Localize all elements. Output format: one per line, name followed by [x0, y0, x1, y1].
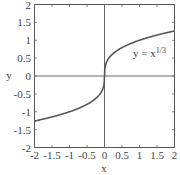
y-tick-label: 2: [26, 0, 32, 11]
y-tick-label: 1.5: [17, 16, 31, 28]
curve-annotation: y = x1/3: [133, 46, 166, 59]
y-tick-labels: -2-1.5-1-0.500.511.52: [14, 0, 32, 154]
x-tick-label: -1.5: [43, 149, 61, 161]
y-tick-label: -2: [22, 142, 31, 154]
x-tick-label: -1: [65, 149, 74, 161]
y-tick-label: 0: [26, 70, 32, 82]
x-tick-label: -2: [30, 149, 39, 161]
x-tick-label: -0.5: [78, 149, 96, 161]
y-axis-label: y: [6, 69, 12, 81]
x-tick-label: 2: [172, 149, 178, 161]
y-tick-label: 1: [26, 34, 32, 46]
y-tick-label: -1.5: [14, 124, 32, 136]
x-tick-label: 1: [137, 149, 143, 161]
x-tick-label: 0.5: [115, 149, 129, 161]
x-axis-label: x: [101, 162, 107, 174]
cube-root-chart: -2-1.5-1-0.500.511.52 -2-1.5-1-0.500.511…: [0, 0, 180, 175]
x-tick-labels: -2-1.5-1-0.500.511.52: [30, 149, 177, 161]
y-tick-label: 0.5: [17, 52, 31, 64]
x-tick-label: 0: [102, 149, 108, 161]
x-tick-label: 1.5: [150, 149, 164, 161]
y-tick-label: -1: [22, 106, 31, 118]
y-tick-label: -0.5: [14, 88, 32, 100]
